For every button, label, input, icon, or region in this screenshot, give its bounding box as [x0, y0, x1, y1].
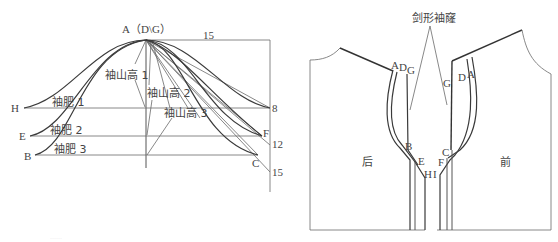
- front-point-F: F: [438, 156, 444, 168]
- sleeve-width-1-label: 袖肥 1: [52, 95, 85, 109]
- sleeve-pattern-figure: A（D\G） 15 8 12 15 H E B F C 袖山高 1 袖山高 2 …: [0, 0, 558, 242]
- back-neck-and-side: [310, 48, 340, 230]
- back-label: 后: [362, 156, 373, 169]
- cap-height-1-label: 袖山高 1: [105, 68, 149, 82]
- point-C: C: [252, 157, 259, 169]
- faint-caption: ······: [50, 236, 62, 242]
- leader-cap-1: [135, 80, 145, 107]
- leader-cap-3: [147, 118, 172, 155]
- front-point-I: I: [433, 168, 437, 180]
- back-point-G: G: [407, 64, 415, 76]
- sleeve-cap-diagram: A（D\G） 15 8 12 15 H E B F C 袖山高 1 袖山高 2 …: [11, 23, 284, 242]
- bodice-armhole-diagram: 剑形袖窿 后 前 A D G B E H G D A C F I: [310, 11, 551, 230]
- diagonal-to-15: [146, 40, 270, 172]
- front-armhole-outer: [522, 30, 551, 230]
- back-point-E: E: [418, 155, 425, 167]
- sword-armhole-title: 剑形袖窿: [412, 11, 456, 25]
- front-point-D: D: [458, 71, 466, 83]
- leader-cap-2: [147, 100, 152, 135]
- sleeve-width-2-label: 袖肥 2: [50, 123, 83, 137]
- front-label: 前: [500, 155, 511, 169]
- top-width-label: 15: [203, 29, 215, 41]
- apex-label: A（D\G）: [122, 23, 171, 35]
- back-point-D: D: [399, 61, 407, 73]
- point-E: E: [19, 130, 26, 142]
- cap-height-3-label: 袖山高 3: [164, 106, 208, 120]
- front-shoulder-line: [452, 30, 522, 61]
- back-point-B: B: [405, 140, 412, 152]
- scale-label-8: 8: [272, 102, 278, 114]
- cap-height-2-label: 袖山高 2: [147, 86, 191, 100]
- point-F: F: [263, 127, 269, 139]
- point-B: B: [24, 150, 31, 162]
- front-point-A: A: [467, 68, 475, 80]
- back-point-H: H: [424, 168, 432, 180]
- back-shoulder-line: [340, 48, 393, 71]
- leader-cap-1-top: [135, 40, 146, 64]
- scale-label-15: 15: [272, 166, 284, 178]
- back-point-A: A: [391, 59, 399, 71]
- point-H: H: [11, 102, 19, 114]
- front-point-G: G: [443, 77, 451, 89]
- callout-line-front: [430, 26, 447, 105]
- sleeve-width-3-label: 袖肥 3: [54, 142, 87, 156]
- cap-curve-2-left: [30, 40, 146, 136]
- front-armhole-G: [451, 61, 452, 150]
- scale-label-12: 12: [272, 138, 283, 150]
